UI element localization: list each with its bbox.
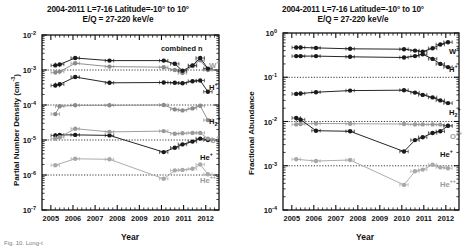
svg-text:10-2: 10-2: [23, 30, 36, 40]
svg-text:10-4: 10-4: [23, 100, 37, 110]
svg-text:2006: 2006: [65, 214, 81, 223]
svg-text:2011: 2011: [416, 214, 432, 223]
svg-text:2012: 2012: [438, 214, 454, 223]
svg-text:2009: 2009: [372, 214, 388, 223]
figure-two-panel-chart: 2004-2011 L=7-16 Latitude=-10° to 10° E/…: [0, 0, 471, 249]
species-label-he-plus: He+: [200, 151, 213, 162]
svg-text:2012: 2012: [197, 214, 213, 223]
svg-text:2007: 2007: [328, 214, 344, 223]
svg-text:2010: 2010: [394, 214, 410, 223]
species-label-w-plus: W+: [449, 45, 459, 56]
svg-text:2006: 2006: [306, 214, 322, 223]
svg-text:10-2: 10-2: [264, 116, 277, 126]
panel-left-plot-area: 10-710-610-510-410-310-22005200620072008…: [0, 0, 236, 249]
svg-text:2011: 2011: [176, 214, 192, 223]
species-label-w-plus: W+: [209, 59, 219, 70]
svg-text:10-7: 10-7: [23, 205, 36, 215]
panel-partial-number-density: 2004-2011 L=7-16 Latitude=-10° to 10° E/…: [0, 0, 236, 249]
svg-text:10-4: 10-4: [264, 205, 278, 215]
species-label-h2-plus: H2+: [449, 106, 461, 118]
svg-text:2007: 2007: [87, 214, 103, 223]
combined-n-annotation: combined n: [161, 44, 202, 53]
species-label-he-2plus: He++: [200, 174, 216, 185]
svg-text:10-3: 10-3: [264, 161, 277, 171]
svg-text:100: 100: [265, 28, 277, 38]
species-label-h-plus: H+: [449, 63, 458, 74]
svg-text:10-5: 10-5: [23, 135, 36, 145]
svg-text:2008: 2008: [350, 214, 366, 223]
species-label-o-2plus: O++: [450, 130, 462, 141]
species-label-o-plus: O+: [210, 134, 219, 145]
species-label-he-2plus: He++: [440, 178, 456, 189]
species-label-he-plus: He+: [440, 148, 453, 159]
panel-fractional-abundance: 2004-2011 L=7-16 Latitude=-10° to 10° E/…: [235, 0, 471, 249]
svg-text:10-1: 10-1: [264, 72, 277, 82]
species-label-h2-plus: H2+: [209, 115, 221, 127]
svg-text:10-3: 10-3: [23, 65, 36, 75]
svg-text:2008: 2008: [109, 214, 125, 223]
species-label-h-plus: H+: [209, 81, 218, 92]
svg-text:10-6: 10-6: [23, 170, 36, 180]
svg-text:2009: 2009: [131, 214, 147, 223]
svg-text:2005: 2005: [43, 214, 59, 223]
svg-text:2010: 2010: [153, 214, 169, 223]
svg-text:2005: 2005: [284, 214, 300, 223]
panel-right-plot-area: 10-410-310-210-1100200520062007200820092…: [235, 0, 471, 249]
figure-caption: Fig. 10. Long-t: [4, 240, 43, 246]
